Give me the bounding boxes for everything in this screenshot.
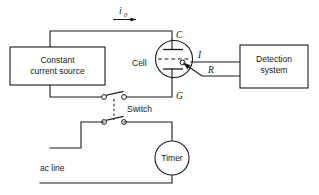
current-arrow-head [131, 17, 137, 21]
timer-label: Timer [161, 153, 183, 163]
switch-label: Switch [127, 104, 152, 114]
detection-system-label-line1: Detection [256, 54, 292, 64]
wire-switch-to-timer [124, 122, 172, 141]
switch-upper-left-contact[interactable] [102, 95, 107, 100]
cell-label: Cell [132, 58, 147, 68]
cell-terminal-g-label: G [176, 91, 183, 101]
reference-lead-label: R [207, 65, 214, 75]
switch-lower-pole[interactable] [102, 117, 127, 125]
current-symbol-label: i [119, 6, 122, 16]
switch-upper-pole[interactable] [102, 92, 127, 100]
wire-ac-line-to-switch [50, 122, 104, 148]
circuit-schematic-canvas: Constant current source Cell C G I R Det… [0, 0, 319, 195]
wire-timer-to-ac-return [40, 175, 172, 183]
constant-current-source-label-line2: current source [30, 66, 85, 76]
current-arrow-group [113, 17, 136, 21]
switch-upper-blade[interactable] [106, 92, 123, 96]
indicator-lead-label: I [197, 50, 202, 60]
constant-current-source-label-line1: Constant [40, 55, 75, 65]
ac-line-label: ac line [40, 163, 65, 173]
switch-upper-right-contact[interactable] [122, 95, 127, 100]
detection-system-label-line2: system [261, 65, 288, 75]
circuit-diagram: Constant current source Cell C G I R Det… [0, 0, 319, 195]
current-symbol-subscript: 0 [124, 11, 128, 18]
cell-terminal-c-label: C [176, 30, 183, 40]
wire-ccs-bottom-to-switch [50, 85, 104, 97]
wire-ccs-top-to-cell-cathode [50, 31, 172, 47]
wire-switch-to-cell-anode [124, 78, 172, 97]
